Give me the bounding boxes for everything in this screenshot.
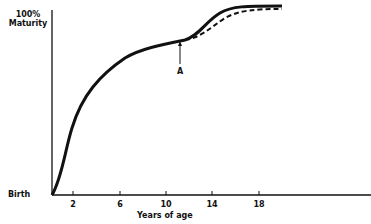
chart-plot — [0, 0, 371, 224]
x-axis-label: Years of age — [137, 211, 193, 220]
dashed-growth-curve — [185, 9, 282, 40]
x-tick-label: 2 — [70, 200, 76, 209]
x-tick-label: 14 — [206, 200, 217, 209]
annotation-label: A — [177, 67, 183, 76]
x-tick-label: 6 — [117, 200, 123, 209]
x-tick-label: 10 — [160, 200, 171, 209]
x-tick-label: 18 — [253, 200, 264, 209]
solid-growth-curve — [52, 6, 282, 195]
